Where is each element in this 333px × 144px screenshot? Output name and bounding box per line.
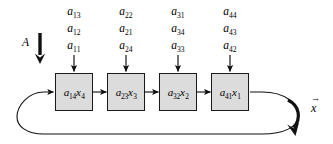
coefficient-label: a34 bbox=[151, 23, 205, 40]
process-box-label: a32x2 bbox=[168, 86, 189, 98]
process-box-2[interactable]: a23x3 bbox=[107, 73, 145, 111]
coefficient-label: a12 bbox=[47, 23, 101, 40]
process-box-1[interactable]: a14x4 bbox=[55, 73, 93, 111]
process-box-label: a41x1 bbox=[220, 86, 241, 98]
coefficient-column-4: a44 a43 a42 bbox=[203, 6, 257, 57]
matrix-input-arrow bbox=[35, 33, 45, 64]
output-vector-label: →x bbox=[311, 96, 320, 114]
process-box-label: a23x3 bbox=[116, 86, 137, 98]
coefficient-label: a22 bbox=[99, 6, 153, 23]
process-box-4[interactable]: a41x1 bbox=[211, 73, 249, 111]
coefficient-label: a42 bbox=[203, 40, 257, 57]
output-vector-arrow bbox=[287, 100, 299, 136]
coefficient-label: a31 bbox=[151, 6, 205, 23]
matrix-vector-dataflow-figure: a13 a12 a11 a22 a21 a24 a31 a34 a33 a44 … bbox=[0, 0, 333, 144]
coefficient-label: a24 bbox=[99, 40, 153, 57]
coefficient-column-1: a13 a12 a11 bbox=[47, 6, 101, 57]
coefficient-column-2: a22 a21 a24 bbox=[99, 6, 153, 57]
matrix-input-label: A bbox=[22, 36, 29, 48]
output-vector-symbol: x bbox=[311, 101, 316, 115]
coefficient-label: a11 bbox=[47, 40, 101, 57]
process-box-3[interactable]: a32x2 bbox=[159, 73, 197, 111]
coefficient-label: a21 bbox=[99, 23, 153, 40]
coefficient-label: a13 bbox=[47, 6, 101, 23]
process-box-label: a14x4 bbox=[64, 86, 85, 98]
coefficient-label: a33 bbox=[151, 40, 205, 57]
coefficient-label: a43 bbox=[203, 23, 257, 40]
coefficient-label: a44 bbox=[203, 6, 257, 23]
coefficient-column-3: a31 a34 a33 bbox=[151, 6, 205, 57]
